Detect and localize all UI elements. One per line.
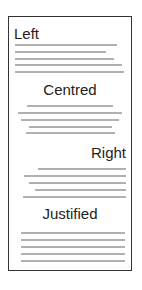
text-line [15, 44, 117, 46]
text-line [35, 189, 126, 191]
text-line [21, 246, 125, 248]
text-line [21, 253, 125, 255]
text-line [27, 105, 113, 107]
heading-right: Right [91, 145, 126, 161]
text-line [15, 64, 122, 66]
text-line [21, 119, 119, 121]
text-line [38, 168, 126, 170]
text-line [21, 260, 125, 262]
text-line [24, 175, 126, 177]
text-line [21, 239, 125, 241]
text-line [23, 196, 126, 198]
text-line [15, 58, 114, 60]
heading-centred: Centred [9, 82, 131, 98]
heading-left: Left [14, 26, 39, 42]
text-line [26, 132, 115, 134]
text-line [21, 232, 125, 234]
page-frame: Left Centred Right Justified [8, 16, 132, 271]
text-line [29, 182, 126, 184]
text-line [29, 126, 112, 128]
text-line [15, 51, 106, 53]
text-line [15, 71, 124, 73]
heading-justified: Justified [9, 206, 131, 222]
text-line [18, 112, 122, 114]
